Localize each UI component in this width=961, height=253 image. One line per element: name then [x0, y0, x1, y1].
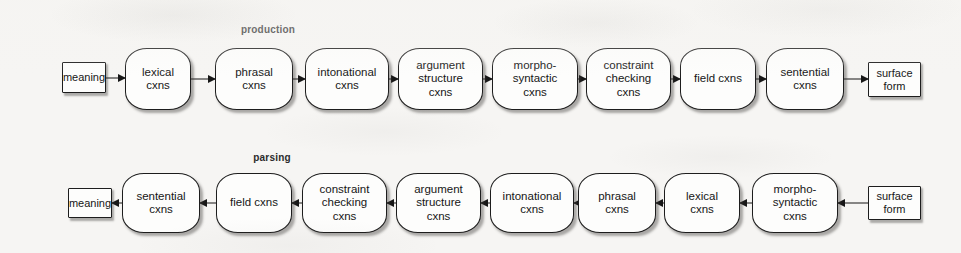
node-label-line: sentential: [136, 190, 185, 202]
node-label-line: surface: [876, 67, 912, 79]
node-label-line: intonational: [318, 66, 377, 78]
node-label: lexicalcxns: [139, 66, 177, 93]
node-label-line: constraint: [320, 183, 370, 195]
connector-parsing-8: [838, 197, 868, 209]
connector-production-4: [483, 73, 492, 85]
node-label-line: constraint: [604, 59, 654, 71]
connector-parsing-7: [740, 197, 752, 209]
arrowhead-icon: [291, 199, 299, 207]
node-label: phrasalcxns: [595, 190, 639, 217]
connector-production-2: [293, 73, 305, 85]
node-label-line: cxns: [429, 86, 453, 98]
node-label: surfaceform: [873, 190, 915, 216]
node-label: constraintcheckingcxns: [601, 59, 657, 100]
node-parsing-field: field cxns: [216, 173, 292, 233]
arrowhead-icon: [837, 199, 845, 207]
node-label-line: cxns: [690, 203, 714, 215]
node-production-meaning: meaning: [62, 62, 106, 93]
arrowhead-icon: [480, 199, 488, 207]
node-production-argument-structure: argumentstructurecxns: [398, 48, 483, 110]
pipeline-diagram: productionmeaninglexicalcxnsphrasalcxnsi…: [0, 0, 961, 253]
node-label-line: intonational: [503, 190, 562, 202]
node-label-line: phrasal: [235, 66, 273, 78]
row-label-parsing: parsing: [253, 152, 291, 163]
connector-production-5: [578, 73, 586, 85]
arrowhead-icon: [386, 199, 394, 207]
node-label-line: cxns: [617, 86, 641, 98]
node-label: intonationalcxns: [500, 190, 565, 217]
node-label-line: argument: [416, 59, 465, 71]
node-label: constraintcheckingcxns: [317, 183, 373, 224]
node-label-line: meaning: [69, 197, 111, 209]
node-production-sentential: sententialcxns: [766, 48, 844, 110]
node-label-line: cxns: [146, 79, 170, 91]
connector-production-3: [389, 73, 398, 85]
node-label-line: field cxns: [694, 72, 742, 84]
node-label: sententialcxns: [133, 190, 188, 217]
node-label-line: checking: [322, 196, 367, 208]
node-label-line: cxns: [523, 86, 547, 98]
node-production-constraint-checking: constraintcheckingcxns: [586, 48, 671, 110]
node-label-line: cxns: [427, 210, 451, 222]
node-label: morpho-syntacticcxns: [510, 59, 561, 100]
node-parsing-lexical: lexicalcxns: [664, 173, 740, 233]
parsing-row: parsingmeaningsententialcxnsfield cxnsco…: [0, 145, 961, 250]
node-label-line: sentential: [780, 66, 829, 78]
node-parsing-sentential: sententialcxns: [122, 173, 200, 233]
node-label: sententialcxns: [777, 66, 832, 93]
node-label: field cxns: [227, 196, 281, 210]
node-production-intonational: intonationalcxns: [305, 48, 389, 110]
node-label: field cxns: [691, 72, 745, 86]
node-label-line: cxns: [149, 203, 173, 215]
node-label-line: surface: [876, 190, 912, 202]
node-label: argumentstructurecxns: [413, 59, 468, 100]
node-production-surface-form: surfaceform: [868, 62, 921, 97]
connector-production-8: [844, 73, 868, 85]
node-label-line: meaning: [63, 71, 105, 83]
connector-production-1: [191, 73, 215, 85]
node-parsing-surface-form: surfaceform: [868, 186, 921, 220]
node-label-line: form: [883, 80, 905, 92]
node-label-line: argument: [414, 183, 463, 195]
node-parsing-constraint-checking: constraintcheckingcxns: [302, 173, 387, 233]
node-label-line: cxns: [242, 79, 266, 91]
node-label-line: cxns: [335, 79, 359, 91]
node-production-field: field cxns: [680, 48, 756, 110]
connector-parsing-2: [292, 197, 302, 209]
connector-production-6: [671, 73, 680, 85]
connector-production-7: [756, 73, 766, 85]
node-label-line: phrasal: [598, 190, 636, 202]
node-label-line: structure: [418, 72, 463, 84]
node-label-line: checking: [606, 72, 651, 84]
node-production-phrasal: phrasalcxns: [215, 48, 293, 110]
node-label-line: lexical: [142, 66, 174, 78]
node-label-line: syntactic: [773, 196, 818, 208]
node-label: intonationalcxns: [315, 66, 380, 93]
node-parsing-intonational: intonationalcxns: [490, 173, 574, 233]
node-label: meaning: [66, 197, 114, 210]
node-label-line: cxns: [605, 203, 629, 215]
row-label-production: production: [241, 24, 295, 35]
node-label-line: form: [883, 203, 905, 215]
connector-parsing-6: [656, 197, 664, 209]
connector-production-0: [106, 72, 125, 84]
node-label-line: cxns: [793, 79, 817, 91]
node-label-line: field cxns: [230, 196, 278, 208]
node-production-morpho-syntactic: morpho-syntacticcxns: [492, 48, 578, 110]
node-parsing-morpho-syntactic: morpho-syntacticcxns: [752, 173, 838, 233]
node-label-line: cxns: [520, 203, 544, 215]
node-label-line: lexical: [686, 190, 718, 202]
node-label: morpho-syntacticcxns: [770, 183, 821, 224]
node-parsing-meaning: meaning: [68, 188, 112, 218]
arrowhead-icon: [199, 199, 207, 207]
node-label: argumentstructurecxns: [411, 183, 466, 224]
node-label-line: cxns: [783, 210, 807, 222]
node-label: phrasalcxns: [232, 66, 276, 93]
node-parsing-phrasal: phrasalcxns: [578, 173, 656, 233]
node-parsing-argument-structure: argumentstructurecxns: [396, 173, 481, 233]
production-row: productionmeaninglexicalcxnsphrasalcxnsi…: [0, 18, 961, 128]
connector-parsing-1: [200, 197, 216, 209]
node-label: surfaceform: [873, 67, 915, 93]
node-label-line: syntactic: [513, 72, 558, 84]
node-production-lexical: lexicalcxns: [125, 48, 191, 110]
